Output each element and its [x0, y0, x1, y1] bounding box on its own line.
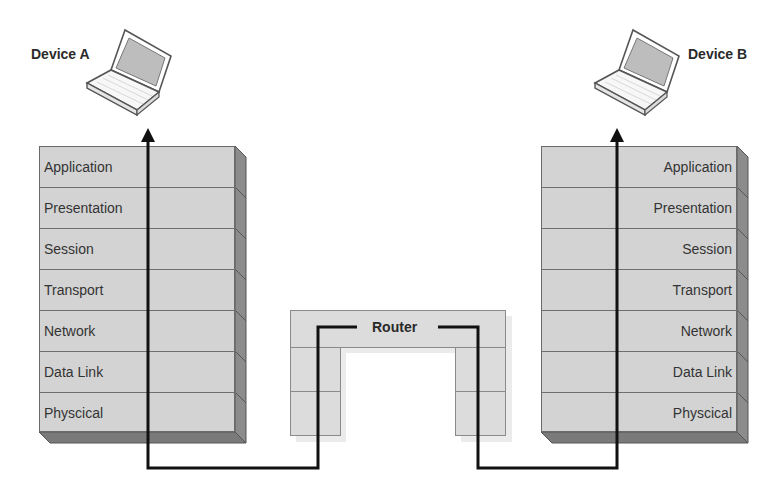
path-device-a-to-router — [148, 140, 357, 468]
data-path — [0, 0, 779, 494]
up-arrow-icon — [610, 128, 624, 142]
up-arrow-icon — [141, 128, 155, 142]
path-router-to-device-b — [438, 140, 617, 468]
